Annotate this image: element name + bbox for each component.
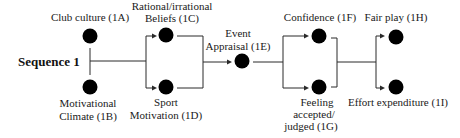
arrow-icon — [227, 60, 232, 65]
node-circle — [159, 28, 174, 43]
connector-1f1g-to-1h1i — [331, 34, 385, 91]
node-label: Motivation (1D) — [130, 109, 203, 122]
node-circle — [389, 30, 404, 45]
node-circle — [83, 80, 98, 95]
node-label: Feeling — [301, 96, 334, 108]
node-circle — [159, 80, 174, 95]
node-label: Effort expenditure (1I) — [348, 96, 448, 109]
node-1i: Effort expenditure (1I) — [348, 80, 448, 110]
node-label: Beliefs (1C) — [145, 12, 199, 25]
node-label: Event — [225, 27, 251, 39]
node-label: Confidence (1F) — [284, 11, 357, 24]
node-circle — [389, 80, 404, 95]
node-1a: Club culture (1A) — [51, 11, 130, 44]
sequence-diagram: Sequence 1 — [0, 0, 460, 138]
node-label: Fair play (1H) — [365, 11, 428, 24]
arrow-icon — [304, 86, 309, 91]
node-1f: Confidence (1F) — [284, 11, 357, 44]
node-circle — [83, 29, 98, 44]
node-label: judged (1G) — [283, 120, 338, 133]
arrow-icon — [380, 34, 385, 39]
node-label: accepted/ — [293, 108, 335, 120]
node-1d: Sport Motivation (1D) — [130, 80, 203, 123]
sequence-title: Sequence 1 — [18, 54, 80, 69]
node-1h: Fair play (1H) — [365, 11, 428, 45]
arrow-icon — [152, 34, 157, 39]
node-label: Sport — [154, 96, 178, 108]
node-label: Appraisal (1E) — [205, 40, 270, 53]
node-label: Rational/irrational — [132, 0, 213, 12]
node-label: Club culture (1A) — [51, 11, 130, 24]
connector-1a1b-to-1c1d — [90, 34, 157, 91]
arrow-icon — [152, 86, 157, 91]
node-circle — [312, 80, 327, 95]
node-label: Climate (1B) — [59, 110, 117, 123]
arrow-icon — [380, 86, 385, 91]
arrow-icon — [304, 34, 309, 39]
node-1b: Motivational Climate (1B) — [59, 80, 117, 124]
node-label: Motivational — [60, 97, 117, 109]
node-circle — [312, 29, 327, 44]
node-circle — [235, 54, 250, 69]
